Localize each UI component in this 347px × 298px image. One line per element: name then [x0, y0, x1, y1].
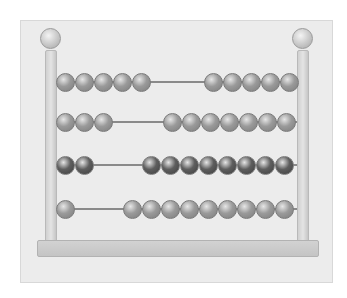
bead-row3-right-5[interactable] [218, 156, 237, 175]
bead-row1-left-1[interactable] [56, 73, 75, 92]
bead-row2-right-4[interactable] [220, 113, 239, 132]
bead-row4-right-4[interactable] [180, 200, 199, 219]
bead-row1-left-3[interactable] [94, 73, 113, 92]
bead-row1-left-2[interactable] [75, 73, 94, 92]
bead-row4-left-1[interactable] [56, 200, 75, 219]
bead-row1-right-3[interactable] [242, 73, 261, 92]
bead-row2-right-6[interactable] [258, 113, 277, 132]
bead-row3-right-6[interactable] [237, 156, 256, 175]
left-knob [40, 28, 61, 49]
bead-row3-left-1[interactable] [56, 156, 75, 175]
right-knob [292, 28, 313, 49]
bead-row1-left-4[interactable] [113, 73, 132, 92]
bead-row2-left-1[interactable] [56, 113, 75, 132]
bead-row3-right-2[interactable] [161, 156, 180, 175]
bead-row4-right-2[interactable] [142, 200, 161, 219]
bead-row2-right-1[interactable] [163, 113, 182, 132]
bead-row3-right-4[interactable] [199, 156, 218, 175]
bead-row4-right-8[interactable] [256, 200, 275, 219]
bead-row4-right-6[interactable] [218, 200, 237, 219]
bead-row1-right-2[interactable] [223, 73, 242, 92]
abacus-base [37, 240, 319, 257]
bead-row1-left-5[interactable] [132, 73, 151, 92]
bead-row4-right-5[interactable] [199, 200, 218, 219]
bead-row4-right-9[interactable] [275, 200, 294, 219]
bead-row2-right-2[interactable] [182, 113, 201, 132]
bead-row1-right-5[interactable] [280, 73, 299, 92]
left-post [45, 50, 57, 242]
bead-row3-right-3[interactable] [180, 156, 199, 175]
bead-row1-right-1[interactable] [204, 73, 223, 92]
bead-row2-right-3[interactable] [201, 113, 220, 132]
bead-row3-right-1[interactable] [142, 156, 161, 175]
bead-row3-right-8[interactable] [275, 156, 294, 175]
bead-row2-right-5[interactable] [239, 113, 258, 132]
bead-row2-left-2[interactable] [75, 113, 94, 132]
bead-row4-right-1[interactable] [123, 200, 142, 219]
bead-row4-right-3[interactable] [161, 200, 180, 219]
bead-row4-right-7[interactable] [237, 200, 256, 219]
bead-row3-left-2[interactable] [75, 156, 94, 175]
bead-row3-right-7[interactable] [256, 156, 275, 175]
bead-row1-right-4[interactable] [261, 73, 280, 92]
right-post [297, 50, 309, 242]
bead-row2-left-3[interactable] [94, 113, 113, 132]
bead-row2-right-7[interactable] [277, 113, 296, 132]
